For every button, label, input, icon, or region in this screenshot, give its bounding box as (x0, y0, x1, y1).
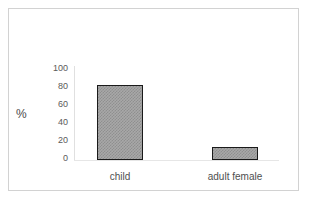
x-axis-baseline (74, 160, 279, 161)
bar-adult-female (212, 147, 258, 160)
plot-area: % 100 80 60 40 20 0 child adult female (0, 0, 311, 207)
bar-chart-figure: % 100 80 60 40 20 0 child adult female (0, 0, 311, 207)
category-label-child: child (90, 171, 150, 182)
y-tick-label-40: 40 (40, 118, 68, 127)
category-label-adult-female: adult female (195, 171, 275, 182)
y-axis-label: % (16, 107, 27, 121)
y-tick-label-100: 100 (40, 64, 68, 73)
y-tick-label-0: 0 (40, 154, 68, 163)
y-tick-label-20: 20 (40, 136, 68, 145)
y-axis-line (74, 66, 75, 161)
y-tick-label-60: 60 (40, 100, 68, 109)
bar-child (97, 85, 143, 160)
y-tick-label-80: 80 (40, 82, 68, 91)
